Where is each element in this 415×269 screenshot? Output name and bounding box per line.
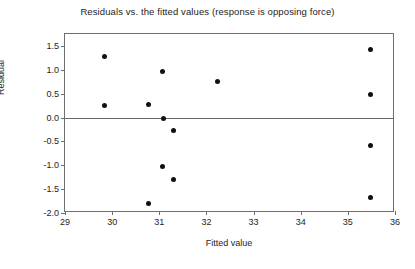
y-tick-label: 0.0 [46, 113, 59, 123]
residual-plot-figure: Residuals vs. the fitted values (respons… [0, 0, 415, 269]
x-tick-mark [65, 211, 66, 215]
chart-title: Residuals vs. the fitted values (respons… [0, 6, 415, 17]
x-tick-label: 30 [107, 217, 117, 227]
x-tick-label: 31 [154, 217, 164, 227]
data-point [171, 128, 176, 133]
x-tick-label: 29 [60, 217, 70, 227]
y-tick-mark [61, 46, 65, 47]
data-point [161, 116, 166, 121]
y-tick-mark [61, 70, 65, 71]
data-point [102, 54, 107, 59]
x-tick-mark [301, 211, 302, 215]
y-tick-label: -1.5 [43, 184, 59, 194]
y-tick-mark [61, 118, 65, 119]
data-point [368, 92, 373, 97]
x-tick-label: 36 [390, 217, 400, 227]
data-point [102, 103, 107, 108]
data-point [146, 201, 151, 206]
y-tick-mark [61, 189, 65, 190]
x-tick-mark [395, 211, 396, 215]
y-tick-label: 1.5 [46, 41, 59, 51]
x-tick-mark [159, 211, 160, 215]
x-tick-label: 33 [249, 217, 259, 227]
y-tick-mark [61, 141, 65, 142]
x-tick-mark [112, 211, 113, 215]
y-tick-mark [61, 165, 65, 166]
x-tick-mark [254, 211, 255, 215]
data-point [171, 177, 176, 182]
y-tick-label: -2.0 [43, 208, 59, 218]
x-axis-title: Fitted value [64, 238, 394, 248]
y-tick-label: 0.5 [46, 89, 59, 99]
data-point [160, 69, 165, 74]
data-point [215, 79, 220, 84]
y-tick-label: -0.5 [43, 136, 59, 146]
data-point [146, 102, 151, 107]
y-tick-mark [61, 94, 65, 95]
data-point [160, 164, 165, 169]
y-tick-label: 1.0 [46, 65, 59, 75]
x-tick-label: 35 [343, 217, 353, 227]
y-tick-label: -1.0 [43, 160, 59, 170]
y-axis-title: Residual [0, 60, 6, 95]
zero-reference-line [65, 118, 393, 119]
data-point [368, 143, 373, 148]
data-point [368, 195, 373, 200]
x-tick-label: 34 [296, 217, 306, 227]
data-point [368, 47, 373, 52]
x-tick-label: 32 [201, 217, 211, 227]
x-tick-mark [206, 211, 207, 215]
plot-area: 1.51.00.50.0-0.5-1.0-1.5-2.0 29303132333… [64, 33, 394, 212]
x-tick-mark [348, 211, 349, 215]
